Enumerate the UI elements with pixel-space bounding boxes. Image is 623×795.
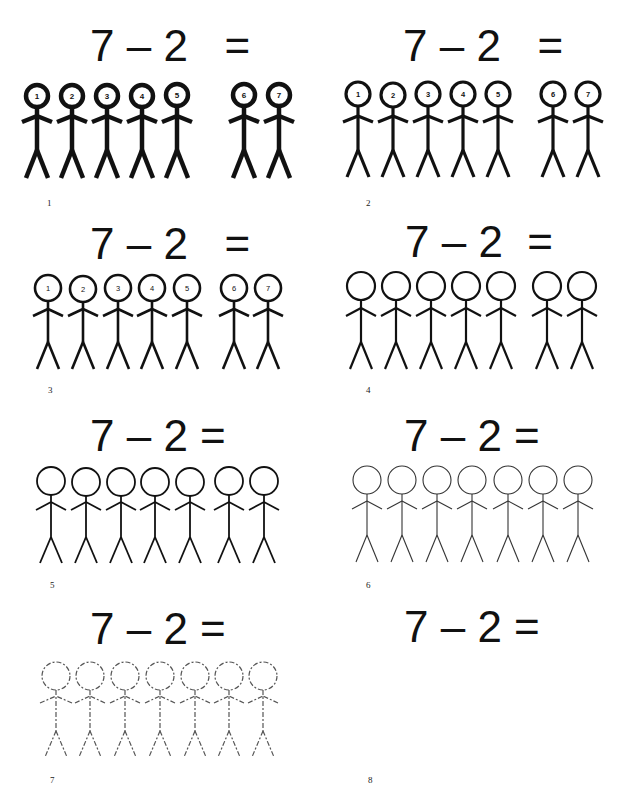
stick-figure-icon	[248, 662, 278, 757]
equation: 7 – 2 =	[404, 605, 540, 649]
stick-figures-group	[0, 0, 623, 795]
stick-figure-icon	[40, 662, 72, 757]
stick-figure-icon	[180, 662, 210, 757]
stick-figure-icon	[145, 662, 175, 757]
stick-figure-icon	[214, 662, 244, 757]
panel-number: 7	[50, 775, 55, 785]
panel-number: 8	[368, 775, 373, 785]
stick-figure-icon	[75, 662, 105, 757]
stick-figure-icon	[110, 662, 140, 757]
